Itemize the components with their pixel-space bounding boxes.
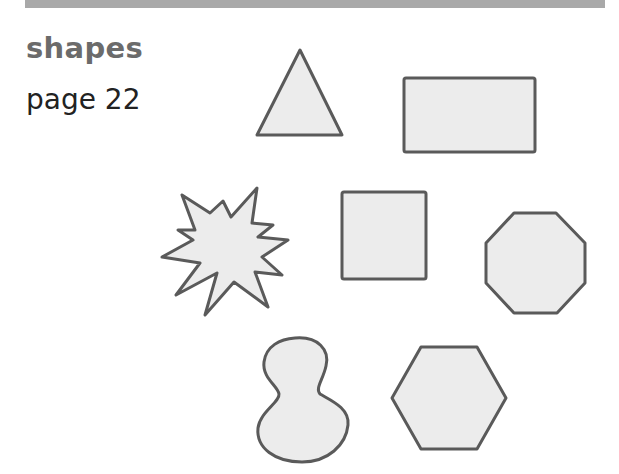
- octagon-shape: [486, 213, 585, 313]
- rectangle-shape: [404, 78, 535, 152]
- shapes-canvas: [0, 0, 619, 474]
- square-shape: [342, 192, 426, 279]
- hexagon-shape: [392, 347, 506, 449]
- blob-shape: [258, 338, 348, 462]
- triangle-shape: [257, 50, 342, 135]
- star-shape: [162, 188, 288, 315]
